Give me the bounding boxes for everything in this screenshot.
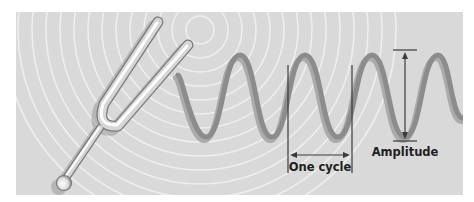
tuning-fork-wave-diagram: One cycle Amplitude: [0, 0, 474, 202]
one-cycle-label: One cycle: [289, 160, 352, 174]
amplitude-label: Amplitude: [372, 145, 439, 159]
